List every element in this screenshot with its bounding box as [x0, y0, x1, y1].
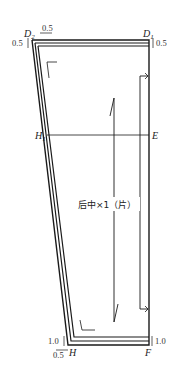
point-h1-label: H1 — [34, 130, 46, 143]
corner-mark-bottom — [80, 320, 95, 330]
corner-mark-top — [47, 62, 57, 78]
left-seam-3 — [38, 46, 149, 337]
point-h-label: H — [68, 347, 77, 358]
outer-cut-line — [32, 40, 149, 345]
piece-label: 后中×1（片） — [78, 199, 136, 210]
outline-lines — [28, 33, 153, 350]
seam-bottom-right-v: 1.0 — [155, 336, 166, 346]
seam-top-left-v: 0.5 — [12, 38, 23, 48]
seam-bottom-left-h: 0.5 — [53, 350, 64, 360]
seam-bottom-left-v: 1.0 — [48, 336, 59, 346]
point-d2-label: D2 — [23, 28, 35, 41]
point-d1-label: D1 — [142, 28, 154, 41]
point-f-label: F — [144, 347, 152, 358]
fold-bracket — [140, 76, 148, 309]
pattern-diagram: D2 D1 H1 E H F 0.5 0.5 0.5 1.0 0.5 1.0 后… — [0, 0, 177, 377]
grain-arrow-bottom-icon — [114, 304, 118, 322]
seam-top-left-h: 0.5 — [42, 23, 53, 33]
seam-top-right-v: 0.5 — [156, 38, 167, 48]
grain-arrow-top-icon — [110, 98, 114, 116]
left-seam-2 — [35, 43, 149, 341]
point-e-label: E — [151, 130, 158, 141]
